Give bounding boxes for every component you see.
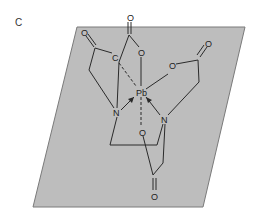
atom-o-left: C: [112, 53, 119, 63]
atom-o-left-carbonyl: O: [81, 28, 88, 38]
atom-o-top: O: [138, 48, 145, 58]
atom-o-bottom: O: [139, 128, 146, 138]
atom-pb: Pb: [136, 88, 147, 98]
atom-o-bottom-carbonyl: O: [151, 192, 158, 202]
atom-n-right: N: [161, 115, 168, 125]
atom-n-left: N: [113, 108, 120, 118]
chemical-structure-diagram: Pb N N O O O O O C O O: [0, 0, 261, 222]
atom-o-right-carbonyl: O: [205, 39, 212, 49]
atom-o-right: O: [169, 61, 176, 71]
atom-o-top-carbonyl: O: [127, 13, 134, 23]
